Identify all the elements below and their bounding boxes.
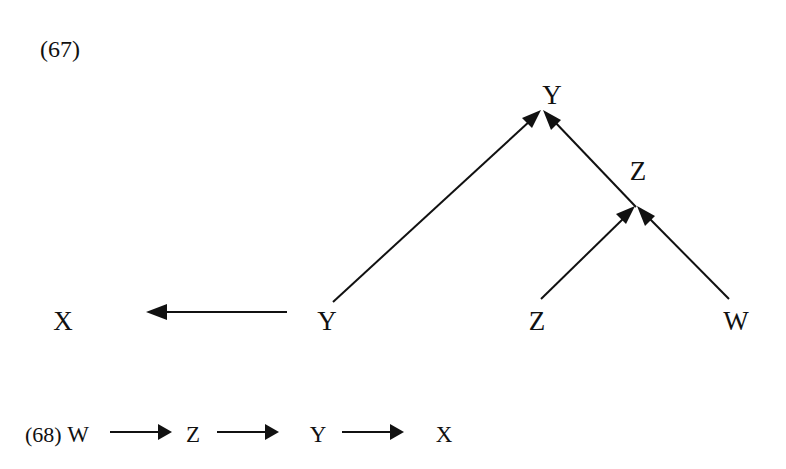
node-z: Z <box>529 308 546 335</box>
node-x: X <box>53 308 73 335</box>
arrowhead-68-y <box>265 424 279 440</box>
arrowhead-mid-z-right <box>637 206 655 226</box>
edge-w-to-mid-z <box>647 216 729 299</box>
chain-node-w: W <box>67 423 89 446</box>
node-top-y: Y <box>542 82 562 109</box>
chain-node-z: Z <box>186 423 200 446</box>
arrowhead-68-z <box>158 424 172 440</box>
chain-node-y: Y <box>310 423 327 446</box>
example-number-68: (68) <box>25 424 62 446</box>
example-number-67: (67) <box>40 37 80 61</box>
chain-node-x: X <box>436 423 453 446</box>
node-w: W <box>723 308 748 335</box>
edge-mid-z-to-top-y <box>553 120 636 207</box>
arrowhead-x <box>146 304 167 320</box>
node-mid-z: Z <box>630 158 647 185</box>
arrowhead-68-x <box>390 424 404 440</box>
edge-z-to-mid-z <box>541 216 626 299</box>
diagram-edges <box>0 0 786 469</box>
edge-y-to-top-y <box>333 120 531 302</box>
node-y: Y <box>317 308 337 335</box>
arrowhead-mid-z-left <box>616 206 635 224</box>
